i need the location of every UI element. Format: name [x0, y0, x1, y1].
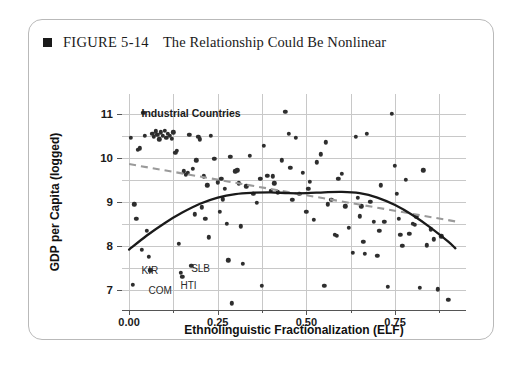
y-tick-label: 11 [101, 108, 113, 120]
x-tick-major [306, 310, 307, 315]
figure-page: FIGURE 5-14 The Relationship Could Be No… [0, 0, 520, 378]
fit-curves-layer [122, 94, 466, 310]
y-tick-label: 8 [107, 240, 113, 252]
loess-curve-line [129, 192, 455, 250]
figure-card: FIGURE 5-14 The Relationship Could Be No… [28, 19, 494, 340]
x-tick-minor [173, 310, 174, 313]
x-tick-minor [351, 310, 352, 313]
x-tick-minor [439, 310, 440, 313]
x-tick-minor [262, 310, 263, 313]
x-tick-label: 0.25 [207, 316, 228, 328]
y-axis-title: GDP per Capita (logged) [48, 133, 62, 271]
figure-number: FIGURE 5-14 [63, 34, 149, 51]
annotation-country-slb: SLB [191, 263, 210, 274]
y-tick-label: 9 [107, 196, 113, 208]
black-square-icon [43, 38, 52, 47]
annotation-country-hti: HTI [181, 280, 197, 291]
y-tick-label: 7 [107, 284, 113, 296]
x-tick-major [218, 310, 219, 315]
x-tick-label: 0.50 [296, 316, 317, 328]
annotation-country-com: COM [149, 285, 172, 296]
figure-header: FIGURE 5-14 The Relationship Could Be No… [43, 34, 386, 51]
plot-area: 0.000.250.500.757891011Industrial Countr… [122, 94, 466, 310]
figure-title: The Relationship Could Be Nonlinear [163, 34, 386, 51]
chart-container: GDP per Capita (logged) Ethnolinguistic … [29, 64, 495, 341]
annotation-industrial-countries: Industrial Countries [142, 107, 241, 119]
annotation-country-kir: KIR [142, 265, 159, 276]
x-tick-label: 0.00 [118, 316, 139, 328]
x-tick-major [395, 310, 396, 315]
x-tick-label: 0.75 [384, 316, 405, 328]
x-tick-major [129, 310, 130, 315]
y-tick-label: 10 [100, 152, 113, 164]
